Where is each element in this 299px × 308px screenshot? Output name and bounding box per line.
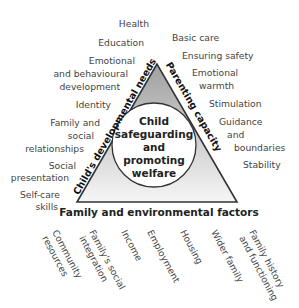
item-family-social-relationships: Family and (50, 117, 100, 128)
item-self-care-skills: Self-care (20, 189, 60, 200)
svg-text:development: development (59, 81, 120, 92)
svg-text:Child: Child (139, 115, 169, 127)
svg-text:and: and (227, 129, 244, 140)
item-employment: Employment (145, 228, 182, 285)
item-emotional-warmth: Emotional (192, 67, 238, 78)
svg-text:social: social (68, 130, 94, 141)
svg-text:safeguarding: safeguarding (115, 128, 193, 140)
bottom-items: Community resources Family's social inte… (40, 228, 287, 303)
svg-text:boundaries: boundaries (234, 142, 286, 153)
item-emotional-behavioural: Emotional (89, 55, 135, 66)
item-ensuring-safety: Ensuring safety (182, 50, 254, 61)
svg-text:welfare: welfare (132, 167, 176, 179)
svg-text:and: and (143, 141, 165, 153)
item-education: Education (98, 37, 144, 48)
svg-text:presentation: presentation (11, 172, 69, 183)
svg-text:relationships: relationships (25, 143, 84, 154)
item-income: Income (119, 228, 145, 263)
item-identity: Identity (76, 99, 112, 110)
item-guidance-boundaries: Guidance (219, 116, 263, 127)
item-basic-care: Basic care (172, 32, 220, 43)
item-housing: Housing (178, 228, 205, 266)
item-health: Health (119, 18, 149, 29)
item-stability: Stability (243, 159, 281, 170)
assessment-triangle-diagram: Child safeguarding and promoting welfare… (0, 0, 299, 308)
svg-text:skills: skills (35, 201, 58, 212)
svg-text:and behavioural: and behavioural (53, 68, 128, 79)
svg-text:promoting: promoting (123, 154, 185, 166)
item-social-presentation: Social (49, 160, 76, 171)
item-stimulation: Stimulation (209, 98, 262, 109)
side-label-family-environmental: Family and environmental factors (59, 206, 258, 218)
svg-text:warmth: warmth (199, 80, 234, 91)
